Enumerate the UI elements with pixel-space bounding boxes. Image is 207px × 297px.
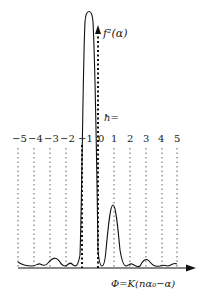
tick-label: 0 (98, 133, 104, 144)
tick-label: −2 (60, 133, 75, 144)
tick-label: −5 (12, 133, 27, 144)
y-axis-arrowhead (95, 25, 101, 34)
x-axis-arrowhead (186, 265, 196, 272)
tick-label: −3 (44, 133, 59, 144)
central-guide-lines (82, 32, 98, 268)
hbar-label: ħ= (104, 112, 119, 123)
tick-label: 2 (127, 133, 133, 144)
tick-label: 5 (174, 133, 180, 144)
diagram-canvas: −5 −4 −3 −2 −1 0 1 2 3 4 5 f²(α) ħ= Φ=K(… (0, 0, 207, 297)
y-axis-label: f²(α) (102, 27, 128, 40)
tick-label: 3 (143, 133, 149, 144)
tick-label: 4 (158, 133, 164, 144)
x-axis-label: Φ=K(nα₀−α) (111, 278, 175, 289)
tick-label: −1 (78, 133, 93, 144)
tick-label: 1 (111, 133, 117, 144)
tick-label: −4 (28, 133, 43, 144)
